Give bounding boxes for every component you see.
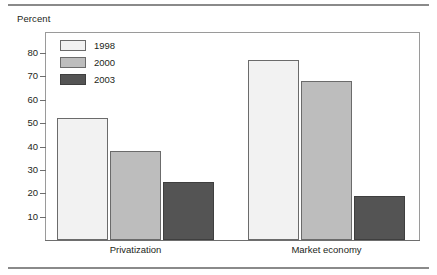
- legend-item-1998: 1998: [60, 38, 115, 53]
- bar-2003-market-economy: [354, 196, 405, 240]
- bar-2000-privatization: [110, 151, 161, 240]
- bar-chart-figure: Percent 1020304050607080 PrivatizationMa…: [0, 0, 437, 275]
- bar-1998-market-economy: [248, 60, 299, 240]
- y-axis-tick: [40, 170, 46, 171]
- y-axis-line: [45, 32, 46, 241]
- y-axis-tick-label: 10: [14, 211, 38, 222]
- legend-swatch-icon: [60, 57, 86, 68]
- y-axis-tick: [40, 123, 46, 124]
- chart-legend: 199820002003: [60, 38, 115, 89]
- legend-label: 1998: [94, 40, 115, 51]
- x-axis-label-market-economy: Market economy: [257, 244, 397, 255]
- legend-swatch-icon: [60, 40, 86, 51]
- y-axis-tick: [40, 53, 46, 54]
- y-axis-tick: [40, 217, 46, 218]
- x-axis-label-privatization: Privatization: [66, 244, 206, 255]
- y-axis-tick: [40, 193, 46, 194]
- y-axis-tick: [40, 147, 46, 148]
- y-axis-tick-label: 60: [14, 94, 38, 105]
- legend-swatch-icon: [60, 74, 86, 85]
- bar-2003-privatization: [163, 182, 214, 240]
- y-axis-tick-label: 50: [14, 117, 38, 128]
- y-axis-tick-label: 80: [14, 47, 38, 58]
- top-divider-rule: [8, 4, 429, 6]
- y-axis-tick-label: 30: [14, 164, 38, 175]
- y-axis-tick: [40, 100, 46, 101]
- bar-2000-market-economy: [301, 81, 352, 240]
- x-axis-line: [45, 240, 420, 241]
- bar-1998-privatization: [57, 118, 108, 240]
- y-axis-tick-label: 40: [14, 141, 38, 152]
- y-axis-tick-label: 70: [14, 70, 38, 81]
- legend-label: 2003: [94, 74, 115, 85]
- y-axis-tick: [40, 76, 46, 77]
- bottom-divider-rule: [8, 267, 429, 269]
- y-axis-title: Percent: [17, 13, 50, 24]
- legend-item-2000: 2000: [60, 55, 115, 70]
- legend-label: 2000: [94, 57, 115, 68]
- y-axis-tick-label: 20: [14, 187, 38, 198]
- legend-item-2003: 2003: [60, 72, 115, 87]
